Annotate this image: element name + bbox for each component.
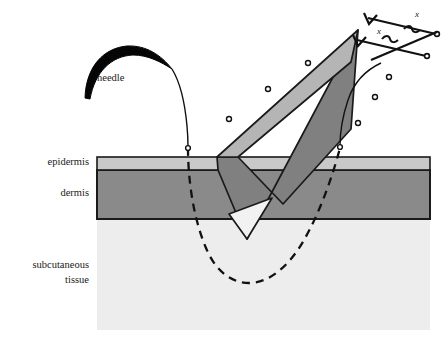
subcutaneous-tissue-layer [97, 219, 430, 330]
particle-dot [266, 87, 271, 92]
particle-dot [387, 75, 392, 80]
particle-dot [373, 95, 378, 100]
subcutaneous-tissue-label-line2: tissue [65, 274, 89, 285]
angle-label-x-lower: x [376, 26, 381, 36]
angle-label-x-upper: x [414, 9, 419, 19]
particle-dot [356, 121, 361, 126]
angle-arc-lower [382, 36, 398, 42]
subcutaneous-tissue-label-line1: subcutaneous [32, 259, 89, 270]
needle-thread-left [172, 69, 188, 148]
particle-dot [306, 61, 311, 66]
particle-dot [227, 117, 232, 122]
needle-group [85, 46, 190, 150]
needle-insertion-diagram: x x needle epidermis dermis subcutaneous… [0, 0, 448, 350]
suture-thread-right-endpoint [338, 145, 343, 150]
epidermis-label: epidermis [48, 156, 89, 167]
angle-annotation-group: x x [353, 9, 439, 60]
annotation-node-lower-right [425, 54, 430, 59]
needle-label: needle [97, 72, 125, 83]
dermis-label: dermis [60, 187, 89, 198]
needle-thread-left-endpoint [186, 146, 191, 151]
epidermis-layer [97, 157, 430, 170]
